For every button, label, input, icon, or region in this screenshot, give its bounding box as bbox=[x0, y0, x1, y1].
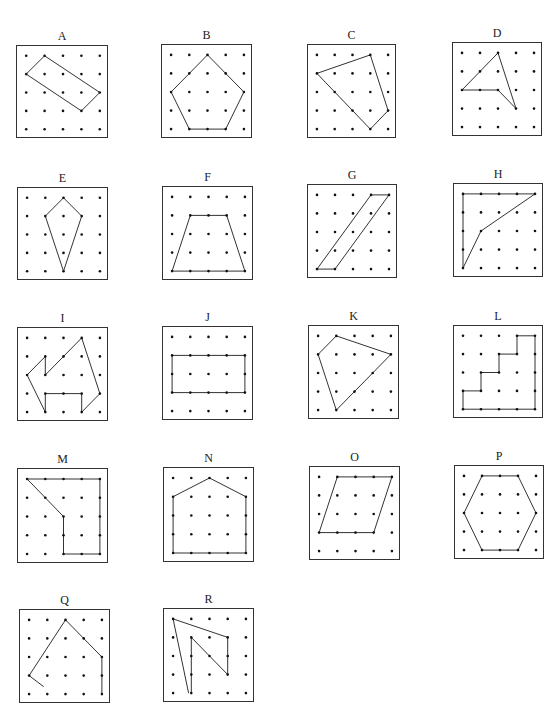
peg-dot bbox=[372, 531, 375, 534]
peg-dot bbox=[189, 251, 192, 254]
peg-dot bbox=[535, 530, 538, 533]
peg-dot bbox=[207, 251, 210, 254]
peg-dot bbox=[188, 72, 191, 75]
geoboard-e: E bbox=[17, 187, 108, 280]
peg-dot bbox=[62, 55, 65, 58]
peg-dot bbox=[62, 337, 65, 340]
peg-dot bbox=[80, 197, 83, 200]
peg-dot bbox=[334, 249, 337, 252]
peg-dot bbox=[26, 478, 29, 481]
peg-dot bbox=[189, 270, 192, 273]
peg-dot bbox=[534, 371, 537, 374]
peg-dot bbox=[372, 476, 375, 479]
peg-dot bbox=[316, 91, 319, 94]
peg-dot bbox=[336, 550, 339, 553]
peg-dot bbox=[516, 408, 519, 411]
peg-dot bbox=[171, 251, 174, 254]
peg-dot bbox=[516, 267, 519, 270]
geoboard-q: Q bbox=[19, 609, 110, 703]
geoboard-a: A bbox=[16, 45, 108, 138]
geoboard-frame bbox=[17, 468, 108, 563]
board-label: M bbox=[17, 453, 108, 465]
peg-dot bbox=[352, 249, 355, 252]
peg-dot bbox=[462, 408, 465, 411]
board-label: O bbox=[309, 451, 400, 463]
peg-dot bbox=[479, 107, 482, 110]
peg-dot bbox=[354, 494, 357, 497]
peg-dot bbox=[480, 230, 483, 233]
peg-dot bbox=[369, 91, 372, 94]
geoboard-canvas bbox=[18, 188, 109, 281]
peg-dot bbox=[516, 193, 519, 196]
peg-dot bbox=[208, 673, 211, 676]
peg-dot bbox=[25, 128, 28, 131]
peg-dot bbox=[80, 553, 83, 556]
peg-dot bbox=[516, 335, 519, 338]
peg-dot bbox=[189, 196, 192, 199]
peg-dot bbox=[80, 478, 83, 481]
peg-dot bbox=[353, 335, 356, 338]
peg-dot bbox=[62, 233, 65, 236]
geoboard-c: C bbox=[307, 44, 396, 138]
peg-dot bbox=[207, 214, 210, 217]
peg-dot bbox=[372, 494, 375, 497]
peg-dot bbox=[336, 513, 339, 516]
board-label: I bbox=[17, 312, 108, 324]
peg-dot bbox=[26, 496, 29, 499]
peg-dot bbox=[46, 656, 49, 659]
geoboard-h: H bbox=[453, 183, 543, 277]
peg-dot bbox=[99, 534, 102, 537]
peg-dot bbox=[515, 70, 518, 73]
peg-dot bbox=[25, 73, 28, 76]
peg-dot bbox=[99, 110, 102, 113]
peg-dot bbox=[516, 211, 519, 214]
peg-dot bbox=[462, 390, 465, 393]
peg-dot bbox=[534, 335, 537, 338]
geoboard-j: J bbox=[162, 326, 253, 420]
peg-dot bbox=[206, 91, 209, 94]
geoboard-canvas bbox=[164, 609, 255, 703]
peg-dot bbox=[243, 54, 246, 57]
shape-outline bbox=[462, 53, 516, 109]
peg-dot bbox=[535, 549, 538, 552]
peg-dot bbox=[533, 126, 536, 129]
peg-dot bbox=[62, 215, 65, 218]
geoboard-canvas bbox=[309, 326, 400, 420]
peg-dot bbox=[172, 495, 175, 498]
peg-dot bbox=[245, 495, 248, 498]
peg-dot bbox=[99, 374, 102, 377]
peg-dot bbox=[62, 197, 65, 200]
peg-dot bbox=[317, 372, 320, 375]
shape-outline bbox=[172, 215, 245, 271]
peg-dot bbox=[189, 233, 192, 236]
peg-dot bbox=[190, 495, 193, 498]
board-label: E bbox=[17, 172, 108, 184]
peg-dot bbox=[62, 270, 65, 273]
peg-dot bbox=[99, 270, 102, 273]
peg-dot bbox=[353, 390, 356, 393]
board-label: P bbox=[454, 450, 544, 462]
peg-dot bbox=[371, 409, 374, 412]
peg-dot bbox=[80, 110, 83, 113]
peg-dot bbox=[245, 636, 248, 639]
peg-dot bbox=[26, 215, 29, 218]
peg-dot bbox=[43, 91, 46, 94]
geoboard-canvas bbox=[162, 45, 253, 139]
peg-dot bbox=[207, 270, 210, 273]
peg-dot bbox=[172, 618, 175, 621]
peg-dot bbox=[351, 91, 354, 94]
geoboard-canvas bbox=[308, 45, 397, 139]
peg-dot bbox=[316, 109, 319, 112]
peg-dot bbox=[44, 215, 47, 218]
peg-dot bbox=[244, 251, 247, 254]
peg-dot bbox=[515, 107, 518, 110]
peg-dot bbox=[44, 411, 47, 414]
peg-dot bbox=[189, 410, 192, 413]
peg-dot bbox=[245, 673, 248, 676]
peg-dot bbox=[99, 411, 102, 414]
geoboard-frame bbox=[162, 326, 253, 420]
peg-dot bbox=[208, 514, 211, 517]
peg-dot bbox=[534, 211, 537, 214]
peg-dot bbox=[535, 475, 538, 478]
geoboard-frame bbox=[453, 183, 543, 277]
